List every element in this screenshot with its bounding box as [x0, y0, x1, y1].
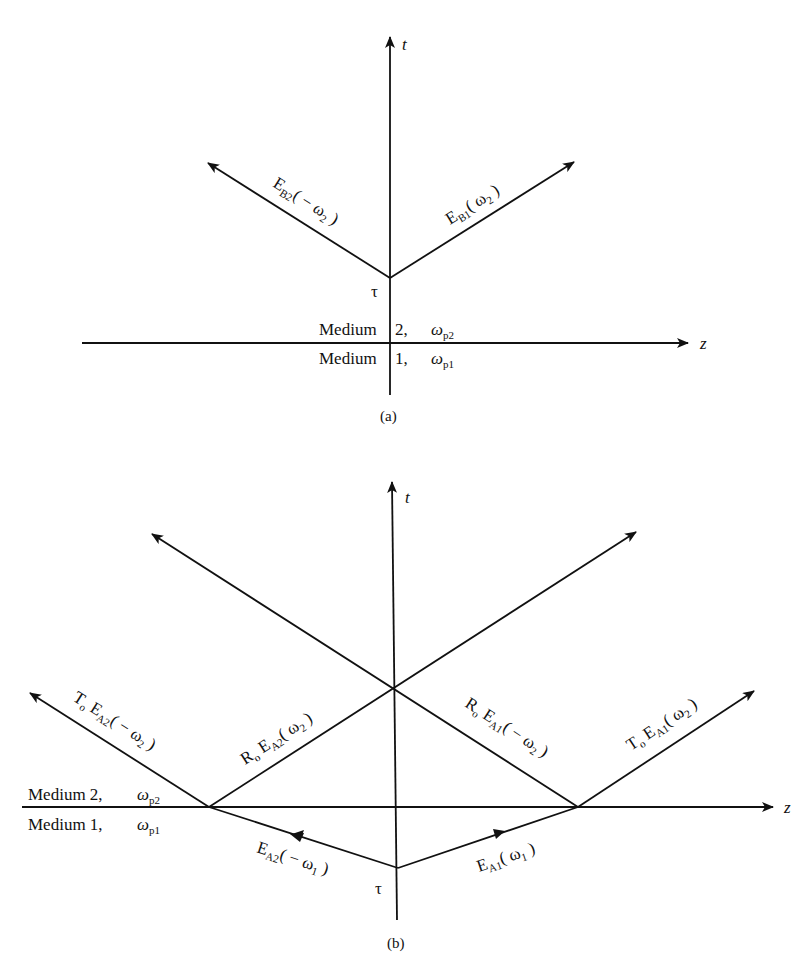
svg-text:EB2( − ω2 ): EB2( − ω2 ) [269, 173, 342, 230]
medium-1-label-a: Medium 1, ωp1 [319, 349, 454, 370]
reflected-left-ray [209, 532, 636, 807]
incident-right-arrowhead [493, 829, 505, 839]
wave-eb1-arrow [390, 162, 574, 278]
svg-text:EA1( ω1 ): EA1( ω1 ) [474, 838, 538, 877]
reflected-right-ray [152, 534, 578, 807]
caption-a: (a) [380, 408, 397, 425]
incident-left-arrowhead-fill [290, 833, 304, 842]
label-ro-ea1: Ro EA1( − ω2 ) [461, 693, 552, 762]
panel-b: t z τ To EA2( − ω2 ) Ro EA2( ω2 ) [22, 482, 791, 952]
svg-text:Ro EA1( − ω2 ): Ro EA1( − ω2 ) [461, 693, 552, 762]
incident-right-ray [398, 807, 578, 868]
tau-label-b: τ [375, 879, 382, 898]
panel-a: t z τ EB2( − ω2 ) EB1( ω2 ) Medium 2, ωp… [82, 35, 707, 425]
medium-2-label-a: Medium 2, ωp2 [319, 320, 454, 341]
transmitted-right-ray [578, 691, 754, 807]
figure-canvas: t z τ EB2( − ω2 ) EB1( ω2 ) Medium 2, ωp… [0, 0, 812, 980]
medium-2-label-b: Medium 2, ωp2 [28, 785, 160, 806]
label-to-ea1: To EA1( ω2 ) [623, 694, 702, 756]
svg-text:To EA1( ω2 ): To EA1( ω2 ) [623, 694, 702, 756]
t-axis-b [392, 482, 397, 920]
label-eb2: EB2( − ω2 ) [269, 173, 342, 230]
label-eb1: EB1( ω2 ) [442, 180, 504, 230]
svg-text:To EA2( − ω2 ): To EA2( − ω2 ) [69, 687, 160, 755]
label-ea1-incident: EA1( ω1 ) [474, 838, 538, 877]
tau-label-a: τ [371, 282, 378, 301]
label-ro-ea2: Ro EA2( ω2 ) [237, 708, 317, 770]
t-axis-label-b: t [405, 488, 411, 507]
svg-text:EA2( − ω1 ): EA2( − ω1 ) [254, 838, 331, 881]
svg-text:Ro EA2( ω2 ): Ro EA2( ω2 ) [237, 708, 317, 770]
z-axis-label-a: z [699, 334, 707, 353]
caption-b: (b) [387, 935, 405, 952]
label-ea2-incident: EA2( − ω1 ) [254, 838, 331, 881]
wave-eb2-arrow [208, 163, 390, 278]
label-to-ea2: To EA2( − ω2 ) [69, 687, 160, 755]
svg-text:EB1( ω2 ): EB1( ω2 ) [442, 180, 504, 230]
z-axis-label-b: z [783, 798, 791, 817]
t-axis-label-a: t [402, 35, 408, 54]
medium-1-label-b: Medium 1, ωp1 [28, 815, 160, 836]
